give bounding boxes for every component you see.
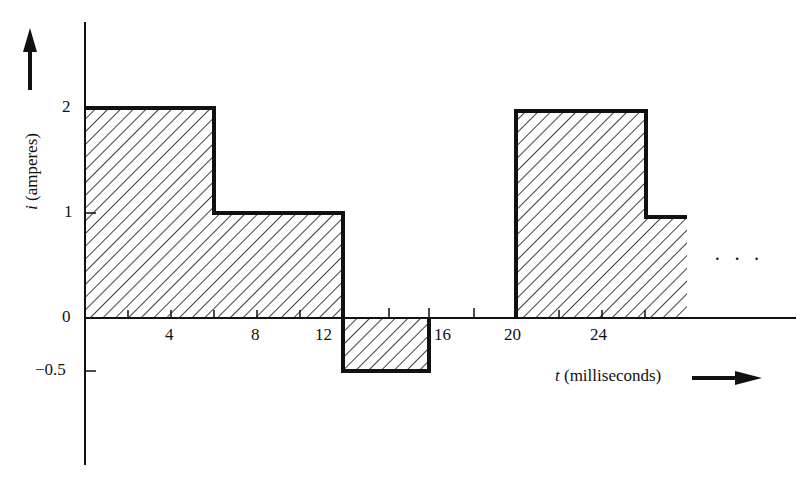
x-axis-arrow-icon [692, 371, 762, 385]
y-axis-variable: i [22, 205, 41, 210]
x-tick-label-16: 16 [434, 325, 451, 345]
waveform-chart [0, 0, 811, 487]
continuation-ellipsis: · · · [714, 248, 764, 271]
x-tick-label-20: 20 [504, 325, 521, 345]
pulse-region-2 [516, 111, 687, 318]
x-axis-variable: t [555, 366, 560, 385]
x-axis-title: t (milliseconds) [555, 366, 661, 386]
x-tick-label-8: 8 [251, 325, 260, 345]
x-tick-label-4: 4 [165, 325, 174, 345]
y-tick-label-neg-0-5: −0.5 [35, 360, 66, 380]
negative-region [343, 318, 429, 371]
y-tick-label-1: 1 [64, 202, 73, 222]
y-tick-label-0: 0 [62, 307, 71, 327]
y-axis-title: i (amperes) [22, 133, 42, 210]
x-axis-unit: (milliseconds) [564, 366, 661, 385]
x-tick-label-24: 24 [590, 325, 607, 345]
x-tick-label-12: 12 [315, 325, 332, 345]
y-axis-arrow-icon [23, 28, 37, 90]
y-tick-label-2: 2 [62, 97, 71, 117]
y-axis-unit: (amperes) [22, 133, 41, 201]
